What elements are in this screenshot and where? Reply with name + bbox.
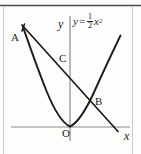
geometry-figure: A B C O x y y= 1 2 x2 xyxy=(0,0,141,154)
x-axis-label: x xyxy=(124,130,129,142)
figure-canvas xyxy=(0,0,141,154)
fraction-denominator: 2 xyxy=(87,21,93,30)
equation-fraction: 1 2 xyxy=(87,13,93,31)
point-label-A: A xyxy=(11,32,19,43)
y-axis-label: y xyxy=(58,18,63,30)
equation-exponent: 2 xyxy=(99,18,103,25)
fraction-numerator: 1 xyxy=(87,13,93,21)
point-label-B: B xyxy=(95,96,102,107)
origin-label-O: O xyxy=(62,128,70,139)
equation-equals-sign: = xyxy=(79,16,85,27)
parabola-equation-label: y= 1 2 x2 xyxy=(73,13,103,31)
point-label-C: C xyxy=(59,53,66,64)
equation-lhs: y xyxy=(73,16,78,27)
